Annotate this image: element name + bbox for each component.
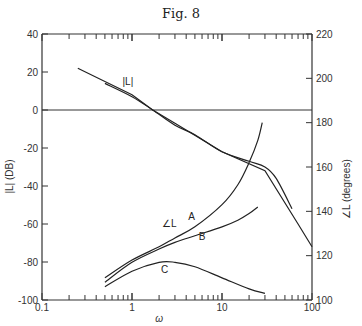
annotation-A: C — [161, 264, 168, 275]
x-axis-label: ω — [155, 313, 163, 324]
y-left-tick-label: 40 — [27, 29, 39, 40]
annotation-L-mag: |L| — [122, 76, 133, 87]
y-right-tick-label: 120 — [316, 250, 333, 261]
y-right-axis-label: ∠L (degrees) — [341, 159, 352, 219]
curve-b — [105, 207, 258, 282]
y-right-tick-label: 160 — [316, 162, 333, 173]
annotation-L-angle: ∠L — [162, 218, 177, 229]
curve-c — [105, 123, 262, 278]
axis-ticks — [42, 34, 312, 300]
y-left-axis-label: |L| (DB) — [4, 159, 15, 193]
y-left-tick-label: -80 — [24, 257, 39, 268]
y-left-tick-label: -40 — [24, 181, 39, 192]
y-right-tick-label: 220 — [316, 29, 333, 40]
y-right-tick-label: 100 — [316, 295, 333, 306]
curve-a — [105, 261, 265, 293]
annotation-B: B — [199, 231, 206, 242]
y-right-tick-label: 200 — [316, 73, 333, 84]
y-left-tick-label: 0 — [32, 105, 38, 116]
y-left-tick-label: 20 — [27, 67, 39, 78]
y-left-tick-label: -100 — [18, 295, 38, 306]
annotation-C: A — [188, 211, 195, 222]
curves — [78, 68, 312, 293]
y-right-tick-label: 180 — [316, 117, 333, 128]
tick-labels: 0.111010040200-20-40-60-80-1002202001801… — [4, 29, 352, 325]
y-left-tick-label: -60 — [24, 219, 39, 230]
y-left-tick-label: -20 — [24, 143, 39, 154]
curve--l- — [105, 83, 292, 208]
x-tick-label: 1 — [129, 302, 135, 313]
x-tick-label: 10 — [216, 302, 228, 313]
y-right-tick-label: 140 — [316, 206, 333, 217]
curve-annotations: |L|∠LABC — [122, 76, 205, 275]
bode-chart: 0.111010040200-20-40-60-80-1002202001801… — [0, 0, 362, 326]
plot-frame — [42, 34, 312, 300]
